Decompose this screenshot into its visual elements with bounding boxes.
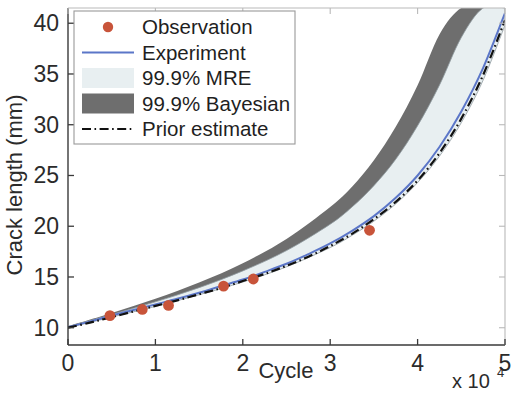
x-axis-multiplier-exponent: 4: [497, 365, 504, 380]
legend-label: Prior estimate: [142, 117, 268, 140]
legend-item: 99.9% MRE: [82, 66, 251, 89]
x-tick-label: 0: [62, 350, 75, 376]
x-tick-label: 1: [149, 350, 162, 376]
legend-marker-patch: [82, 94, 134, 114]
crack-growth-figure: 012345 10152025303540 Cycle Crack length…: [0, 0, 513, 393]
x-axis-multiplier: x 10: [452, 370, 490, 392]
y-tick-label: 30: [33, 112, 59, 138]
legend-marker-dot: [103, 22, 113, 32]
y-tick-label: 15: [33, 264, 59, 290]
x-axis-title: Cycle: [258, 358, 313, 383]
y-axis-title: Crack length (mm): [2, 95, 27, 276]
x-tick-label: 4: [411, 350, 424, 376]
crack-growth-chart: 012345 10152025303540 Cycle Crack length…: [0, 0, 513, 393]
legend-marker-patch: [82, 68, 134, 88]
legend-label: 99.9% Bayesian: [142, 92, 290, 115]
y-tick-label: 40: [33, 10, 59, 36]
y-tick-label: 20: [33, 213, 59, 239]
legend-label: 99.9% MRE: [142, 66, 251, 89]
chart-legend: ObservationExperiment99.9% MRE99.9% Baye…: [74, 11, 295, 144]
x-tick-label: 2: [236, 350, 249, 376]
y-tick-label: 10: [33, 315, 59, 341]
y-tick-label: 25: [33, 162, 59, 188]
legend-label: Experiment: [142, 41, 246, 64]
legend-label: Observation: [142, 15, 253, 38]
legend-item: 99.9% Bayesian: [82, 92, 290, 115]
x-tick-label: 3: [324, 350, 337, 376]
y-tick-label: 35: [33, 61, 59, 87]
